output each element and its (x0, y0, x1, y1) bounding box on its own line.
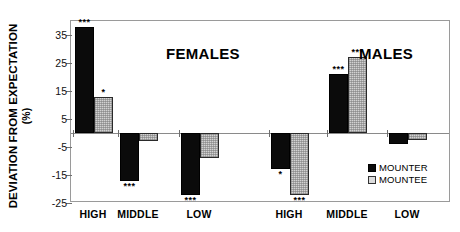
y-axis-tick-label: 25 (55, 57, 67, 69)
y-axis-tick-label: 15 (55, 85, 67, 97)
x-axis-label-middle-males: MIDDLE (326, 208, 367, 220)
bar-mountee-2 (200, 133, 219, 158)
x-axis-label-low-females: LOW (186, 208, 211, 220)
x-axis-tick-mark (179, 130, 180, 137)
bar-mountee-4 (348, 57, 367, 133)
legend-item-mounter: MOUNTER (368, 162, 428, 174)
legend-label-mounter: MOUNTER (379, 162, 428, 174)
legend-item-mountee: MOUNTEE (368, 174, 428, 186)
x-axis-label-low-males: LOW (394, 208, 419, 220)
y-axis-tick-label: 35 (55, 29, 67, 41)
bar-mountee-5 (408, 133, 427, 140)
legend-swatch-mounter-icon (368, 164, 376, 172)
bar-mounter-4 (329, 74, 348, 133)
x-axis-tick-mark (73, 130, 74, 137)
significance-marker-mounter-0: *** (73, 18, 96, 26)
legend-swatch-mountee-icon (368, 176, 376, 184)
y-axis-tick-label: -25 (52, 197, 67, 209)
significance-marker-mounter-3: * (269, 170, 292, 178)
y-axis-title-units: (%) (20, 24, 33, 209)
chart-legend: MOUNTER MOUNTEE (368, 162, 428, 186)
bar-mountee-3 (290, 133, 309, 195)
y-axis-tick-label: -5 (58, 141, 67, 153)
x-axis-tick-mark (327, 130, 328, 137)
legend-label-mountee: MOUNTEE (379, 174, 427, 186)
significance-marker-mounter-2: *** (179, 196, 202, 204)
y-axis-tick-label: -15 (52, 169, 67, 181)
bar-mounter-2 (181, 133, 200, 195)
y-axis-tick-label: 5 (61, 113, 67, 125)
y-axis-title: DEVIATION FROM EXPECTATION (%) (0, 0, 40, 232)
panel-title-males: MALES (359, 45, 413, 62)
significance-marker-mountee-3: *** (288, 196, 311, 204)
x-axis-label-high-males: HIGH (275, 208, 302, 220)
bar-mounter-1 (120, 133, 139, 181)
x-axis-tick-mark (118, 130, 119, 137)
bar-mounter-0 (75, 27, 94, 133)
x-axis-label-high-females: HIGH (79, 208, 106, 220)
x-axis-tick-mark (269, 130, 270, 137)
significance-marker-mounter-4: *** (327, 65, 350, 73)
bar-mountee-0 (94, 97, 113, 133)
panel-title-females: FEMALES (166, 45, 240, 62)
x-axis-tick-mark (387, 130, 388, 137)
significance-marker-mountee-0: * (92, 88, 115, 96)
bar-mounter-3 (271, 133, 290, 169)
significance-marker-mounter-1: *** (118, 182, 141, 190)
y-axis-title-text: DEVIATION FROM EXPECTATION (%) (7, 24, 33, 209)
bar-mounter-5 (389, 133, 408, 144)
bar-mountee-1 (139, 133, 158, 141)
x-axis-label-middle-females: MIDDLE (117, 208, 158, 220)
y-axis-title-line1: DEVIATION FROM EXPECTATION (7, 24, 20, 209)
